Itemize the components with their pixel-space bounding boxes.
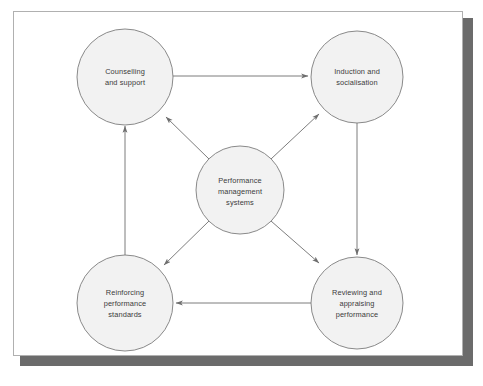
node-centre-label-line3: systems <box>226 198 254 207</box>
node-performance-management-systems[interactable]: Performance management systems <box>196 146 284 234</box>
node-induction-circle[interactable] <box>311 31 403 123</box>
node-centre-label-line1: Performance <box>218 176 261 185</box>
diagram-canvas: Counselling and support Induction and so… <box>0 0 483 386</box>
node-reinforcing-label-line3: standards <box>108 310 142 319</box>
node-reviewing-label-line1: Reviewing and <box>332 288 382 297</box>
node-reviewing[interactable]: Reviewing and appraising performance <box>311 257 403 349</box>
figure-root: Counselling and support Induction and so… <box>0 0 483 386</box>
node-counselling-label-line1: Counselling <box>105 67 145 76</box>
node-reinforcing-label-line2: performance <box>104 299 147 308</box>
node-counselling[interactable]: Counselling and support <box>77 29 173 125</box>
node-counselling-label-line2: and support <box>105 78 145 87</box>
node-induction-label-line2: socialisation <box>336 78 378 87</box>
node-reviewing-label-line3: performance <box>336 310 379 319</box>
node-reinforcing-label-line1: Reinforcing <box>106 288 144 297</box>
node-reinforcing[interactable]: Reinforcing performance standards <box>77 255 173 351</box>
node-counselling-circle[interactable] <box>77 29 173 125</box>
node-induction-label-line1: Induction and <box>334 67 380 76</box>
node-centre-label-line2: management <box>218 187 262 196</box>
node-induction[interactable]: Induction and socialisation <box>311 31 403 123</box>
node-reviewing-label-line2: appraising <box>339 299 374 308</box>
